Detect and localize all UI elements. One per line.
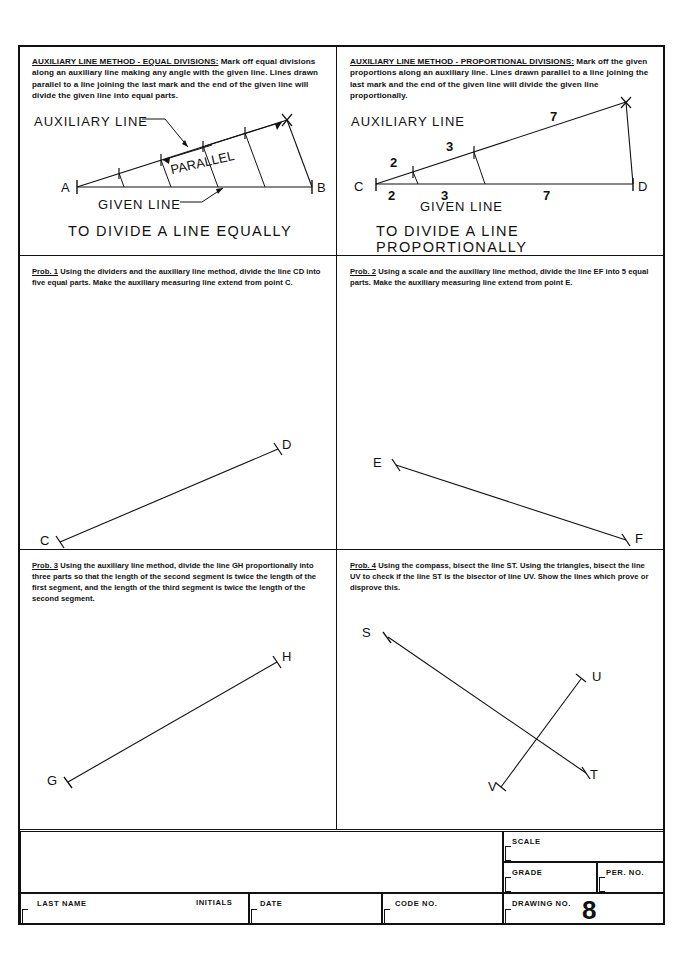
- code-no-label: CODE NO.: [395, 899, 437, 908]
- drawing-no-cell[interactable]: DRAWING NO. 8: [503, 893, 665, 925]
- horizontal-divider-2: [20, 549, 665, 550]
- date-cell[interactable]: DATE: [249, 893, 382, 925]
- title-block: SCALE GRADE PER. NO. LAST NAME INITIALS …: [20, 831, 665, 925]
- corner-tick: [505, 909, 511, 924]
- drawing-sheet: AUXILIARY LINE METHOD - EQUAL DIVISIONS:…: [18, 45, 665, 925]
- corner-tick: [505, 846, 511, 861]
- drawing-number: 8: [582, 895, 596, 926]
- corner-tick: [251, 909, 257, 924]
- panel-equal-divisions: AUXILIARY LINE METHOD - EQUAL DIVISIONS:…: [20, 47, 336, 255]
- initials-label: INITIALS: [196, 898, 232, 907]
- grade-label: GRADE: [512, 868, 542, 877]
- scale-label: SCALE: [512, 837, 541, 846]
- per-no-cell[interactable]: PER. NO.: [597, 862, 665, 893]
- horizontal-divider-1: [20, 255, 665, 256]
- diagram-equal-divisions: [20, 47, 336, 255]
- corner-tick: [384, 909, 390, 924]
- last-name-label: LAST NAME: [37, 899, 87, 908]
- date-label: DATE: [260, 899, 283, 908]
- title-block-blank-area[interactable]: [20, 831, 503, 893]
- panel-problem-3: Prob. 3 Using the auxiliary line method,…: [20, 551, 336, 829]
- grade-cell[interactable]: GRADE: [503, 862, 597, 893]
- line-gh: [20, 551, 336, 829]
- scale-cell[interactable]: SCALE: [503, 831, 665, 862]
- line-cd: [20, 257, 336, 549]
- horizontal-divider-3: [20, 829, 665, 830]
- corner-tick: [599, 877, 605, 892]
- diagram-proportional-divisions: [338, 47, 665, 255]
- vertical-divider: [336, 47, 337, 829]
- corner-tick: [22, 909, 28, 924]
- drawing-no-label: DRAWING NO.: [512, 899, 571, 908]
- lines-st-uv: [338, 551, 665, 829]
- code-no-cell[interactable]: CODE NO.: [382, 893, 503, 925]
- corner-tick: [505, 877, 511, 892]
- panel-problem-1: Prob. 1 Using the dividers and the auxil…: [20, 257, 336, 549]
- per-no-label: PER. NO.: [606, 868, 644, 877]
- panel-problem-4: Prob. 4 Using the compass, bisect the li…: [338, 551, 665, 829]
- panel-problem-2: Prob. 2 Using a scale and the auxiliary …: [338, 257, 665, 549]
- line-ef: [338, 257, 665, 549]
- panel-proportional-divisions: AUXILIARY LINE METHOD - PROPORTIONAL DIV…: [338, 47, 665, 255]
